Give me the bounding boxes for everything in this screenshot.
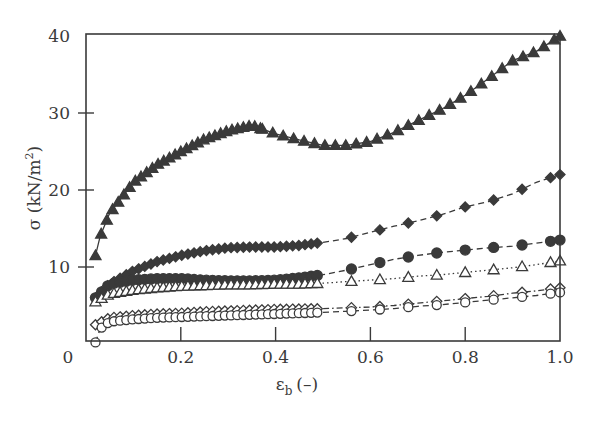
x-tick-label: 0.6 (357, 347, 384, 367)
triangle-filled-marker (90, 250, 101, 260)
diamond-filled-marker (432, 211, 442, 221)
circle-open-marker (404, 303, 413, 312)
diamond-filled-marker (375, 225, 385, 235)
circle-filled-marker (375, 258, 385, 268)
stress-strain-chart: 00.20.40.60.81.010203040 εb(–) σ (kN/m2) (0, 0, 594, 422)
x-tick-label: 0 (63, 347, 74, 367)
x-tick-label: 1.0 (546, 347, 573, 367)
triangle-filled-marker (538, 41, 549, 51)
circle-open-marker (518, 292, 527, 301)
circle-open-marker (91, 338, 100, 347)
diamond-filled-marker (403, 218, 413, 228)
triangle-filled-marker (372, 133, 383, 143)
circle-filled-marker (489, 242, 499, 252)
triangle-filled-marker (392, 125, 403, 135)
triangle-filled-marker (101, 215, 112, 225)
triangle-open-marker (460, 267, 471, 277)
series-triangle-filled (90, 31, 566, 260)
x-tick-label: 0.2 (167, 347, 194, 367)
triangle-open-marker (517, 261, 528, 271)
triangle-filled-marker (445, 99, 456, 109)
triangle-filled-marker (413, 115, 424, 125)
triangle-filled-marker (507, 55, 518, 65)
diamond-filled-marker (546, 173, 556, 183)
x-axis-label: εb(–) (276, 374, 318, 398)
diamond-filled-marker (517, 184, 527, 194)
circle-open-marker (375, 305, 384, 314)
triangle-open-marker (374, 274, 385, 284)
circle-open-marker (313, 308, 322, 317)
triangle-filled-marker (434, 105, 445, 115)
triangle-filled-marker (455, 93, 466, 103)
circle-open-marker (461, 298, 470, 307)
triangle-filled-marker (465, 86, 476, 96)
diamond-filled-marker (489, 195, 499, 205)
diamond-filled-marker (460, 202, 470, 212)
circle-filled-marker (403, 252, 413, 262)
y-tick-label: 40 (48, 26, 70, 46)
x-tick-label: 0.4 (262, 347, 289, 367)
triangle-filled-marker (518, 51, 529, 61)
y-tick-label: 20 (48, 180, 70, 200)
circle-filled-marker (432, 248, 442, 258)
triangle-filled-marker (497, 63, 508, 73)
circle-filled-marker (546, 236, 556, 246)
circle-filled-marker (460, 245, 470, 255)
y-axis-label: σ (kN/m2) (23, 146, 44, 230)
triangle-open-marker (403, 272, 414, 282)
circle-open-marker (432, 301, 441, 310)
circle-open-marker (546, 289, 555, 298)
circle-open-marker (489, 295, 498, 304)
triangle-filled-marker (382, 129, 393, 139)
series-layer (90, 31, 566, 347)
triangle-filled-marker (528, 47, 539, 57)
triangle-filled-marker (424, 110, 435, 120)
diamond-filled-marker (346, 232, 356, 242)
triangle-filled-marker (476, 78, 487, 88)
series-circle-open (91, 288, 565, 347)
y-tick-label: 10 (48, 257, 70, 277)
y-tick-label: 30 (48, 103, 70, 123)
triangle-filled-marker (403, 120, 414, 130)
circle-filled-marker (346, 264, 356, 274)
x-tick-label: 0.8 (452, 347, 479, 367)
circle-filled-marker (517, 240, 527, 250)
circle-open-marker (347, 307, 356, 316)
triangle-filled-marker (486, 71, 497, 81)
triangle-filled-marker (96, 228, 107, 238)
